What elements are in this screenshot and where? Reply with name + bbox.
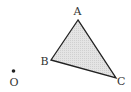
vertex-label-b: B xyxy=(41,55,49,68)
triangle-abc xyxy=(51,20,116,78)
vertex-label-a: A xyxy=(73,5,83,18)
point-o-dot xyxy=(12,69,16,73)
point-label-o: O xyxy=(10,76,19,89)
vertex-label-c: C xyxy=(117,75,125,88)
geometry-diagram: A B C O xyxy=(0,0,131,92)
